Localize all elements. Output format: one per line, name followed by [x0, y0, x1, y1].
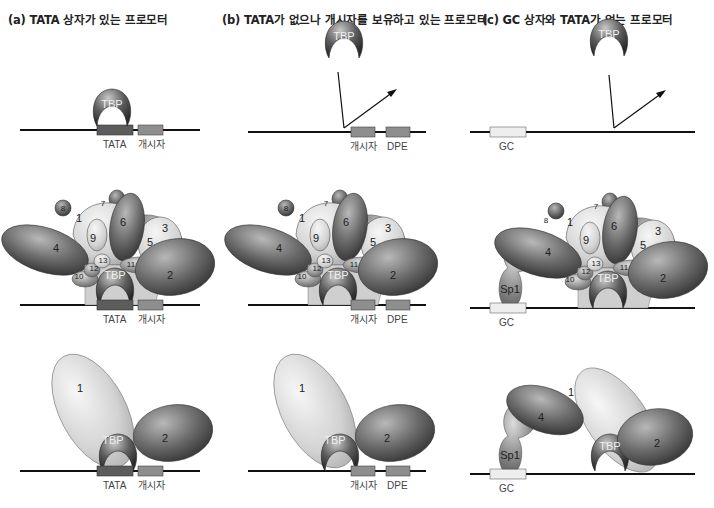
svg-text:1: 1	[567, 216, 573, 228]
svg-text:GC: GC	[499, 483, 514, 494]
svg-text:12: 12	[582, 267, 591, 276]
panel-c-row3: 1 4 TBP 2 Sp1 GC	[470, 354, 697, 494]
svg-text:4: 4	[53, 242, 59, 254]
panel-a-row3: 1 TBP 2 TATA 개시자	[20, 341, 217, 491]
svg-text:1: 1	[76, 212, 82, 224]
svg-text:3: 3	[162, 222, 168, 234]
svg-text:5: 5	[640, 239, 646, 251]
svg-text:2: 2	[167, 269, 173, 281]
svg-text:8: 8	[544, 216, 549, 225]
svg-text:2: 2	[390, 269, 396, 281]
svg-text:1: 1	[299, 212, 305, 224]
svg-text:Sp1: Sp1	[500, 449, 520, 461]
svg-text:6: 6	[611, 220, 617, 232]
svg-text:9: 9	[90, 232, 96, 244]
sp1-label: Sp1	[500, 283, 520, 295]
svg-text:10: 10	[566, 275, 575, 284]
svg-text:8: 8	[61, 204, 66, 213]
svg-text:TBP: TBP	[324, 434, 345, 446]
svg-text:개시자: 개시자	[138, 314, 165, 325]
svg-text:TBP: TBP	[599, 440, 620, 452]
svg-text:11: 11	[350, 260, 359, 269]
svg-text:2: 2	[660, 272, 666, 284]
svg-text:10: 10	[75, 272, 84, 281]
svg-text:7: 7	[101, 199, 106, 208]
panel-c-row1: TBP GC	[470, 19, 695, 152]
svg-text:2: 2	[384, 432, 390, 444]
initiator-label: 개시자	[138, 139, 165, 150]
svg-text:1: 1	[299, 382, 305, 394]
panel-b-row2: 8 1 7 6 3 5 9 4 13 11 12 10 TBP 2 개시자 DP…	[218, 190, 442, 325]
svg-text:4: 4	[276, 242, 282, 254]
promoter-diagram: TBP TATA 개시자 TBP 개시자 DPE TBP GC 8 1 7	[0, 0, 714, 508]
svg-text:5: 5	[147, 236, 153, 248]
tbp-label: TBP	[101, 98, 122, 110]
svg-text:6: 6	[343, 216, 349, 228]
panel-a-row2: 8 1 7 6 3 5 9 4 13 11 12 10 TBP 2 TATA 개…	[0, 190, 219, 325]
svg-text:8: 8	[284, 204, 289, 213]
svg-text:2: 2	[654, 437, 660, 449]
tbp-label: TBP	[598, 28, 619, 40]
svg-text:11: 11	[620, 263, 629, 272]
svg-text:4: 4	[538, 411, 544, 423]
svg-text:6: 6	[120, 216, 126, 228]
svg-text:TATA: TATA	[103, 480, 127, 491]
svg-text:1: 1	[77, 382, 83, 394]
svg-text:1: 1	[568, 386, 574, 398]
panel-b-row1: TBP 개시자 DPE	[248, 21, 426, 152]
svg-text:개시자: 개시자	[350, 314, 377, 325]
svg-text:5: 5	[370, 236, 376, 248]
svg-text:12: 12	[313, 264, 322, 273]
svg-text:10: 10	[298, 272, 307, 281]
svg-text:DPE: DPE	[387, 480, 408, 491]
svg-text:개시자: 개시자	[350, 480, 377, 491]
svg-text:13: 13	[592, 259, 601, 268]
svg-text:개시자: 개시자	[138, 480, 165, 491]
svg-text:3: 3	[655, 225, 661, 237]
svg-text:4: 4	[545, 246, 551, 258]
gc-label: GC	[499, 141, 514, 152]
svg-text:TATA: TATA	[103, 314, 127, 325]
initiator-label: 개시자	[350, 141, 377, 152]
panel-b-row3: 1 TBP 2 개시자 DPE	[248, 341, 439, 491]
svg-text:12: 12	[90, 264, 99, 273]
panel-c-row2: 8 1 7 6 3 5 9 4 13 11 12 10 TBP 2 Sp1 GC	[470, 193, 712, 328]
svg-text:3: 3	[385, 222, 391, 234]
svg-text:13: 13	[322, 256, 331, 265]
svg-text:9: 9	[313, 232, 319, 244]
svg-text:TBP: TBP	[327, 269, 348, 281]
svg-text:7: 7	[324, 199, 329, 208]
svg-text:2: 2	[162, 432, 168, 444]
svg-text:7: 7	[594, 202, 599, 211]
svg-text:TBP: TBP	[102, 434, 123, 446]
svg-text:11: 11	[127, 260, 136, 269]
dpe-label: DPE	[387, 141, 408, 152]
svg-text:GC: GC	[499, 317, 514, 328]
svg-text:TBP: TBP	[104, 269, 125, 281]
tata-label: TATA	[103, 139, 127, 150]
svg-text:DPE: DPE	[387, 314, 408, 325]
tbp-label: TBP	[333, 30, 354, 42]
svg-text:9: 9	[583, 234, 589, 246]
panel-a-row1: TBP TATA 개시자	[20, 89, 200, 150]
svg-text:13: 13	[99, 256, 108, 265]
svg-text:TBP: TBP	[597, 272, 618, 284]
